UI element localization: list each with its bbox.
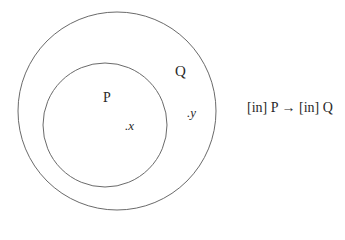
- element-x: .x: [125, 118, 134, 133]
- inner-circle-p: [43, 63, 167, 187]
- implication-caption: [in] P → [in] Q: [247, 100, 333, 116]
- label-q: Q: [175, 63, 186, 79]
- element-y: .y: [187, 105, 196, 120]
- label-p: P: [103, 90, 111, 105]
